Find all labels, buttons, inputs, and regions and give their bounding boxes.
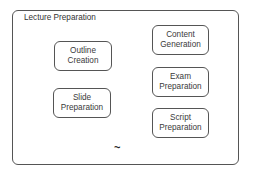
node-slide-preparation: Slide Preparation: [53, 88, 111, 118]
node-label: Outline Creation: [68, 46, 99, 67]
tilde-marker: ~: [114, 141, 120, 153]
container-title: Lecture Preparation: [24, 13, 96, 23]
node-label: Slide Preparation: [61, 93, 103, 114]
node-label: Content Generation: [160, 30, 201, 51]
node-label: Exam Preparation: [159, 72, 201, 93]
node-script-preparation: Script Preparation: [152, 108, 209, 138]
node-outline-creation: Outline Creation: [54, 41, 112, 71]
node-exam-preparation: Exam Preparation: [152, 67, 209, 97]
node-label: Script Preparation: [159, 113, 201, 134]
node-content-generation: Content Generation: [152, 25, 209, 55]
